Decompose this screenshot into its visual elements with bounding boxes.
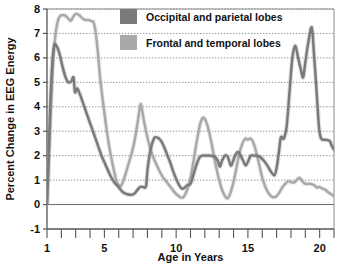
legend-label-0: Occipital and parietal lobes (146, 11, 283, 23)
legend-label-1: Frontal and temporal lobes (146, 37, 281, 49)
y-tick-label-0: 0 (34, 198, 40, 210)
chart-canvas: -101234567815101520Occipital and parieta… (0, 0, 343, 266)
y-tick-label-3: 3 (34, 125, 40, 137)
y-axis-title: Percent Change in EEG Energy (4, 37, 16, 201)
y-tick-label-6: 6 (34, 51, 40, 63)
y-tick-label-7: 7 (34, 27, 40, 39)
x-tick-label-1: 1 (44, 242, 50, 254)
legend-swatch-0 (120, 9, 137, 24)
y-tick-label-8: 8 (34, 3, 40, 15)
y-axis-ticks: -1012345678 (30, 3, 47, 235)
y-tick-label-1: 1 (34, 174, 40, 186)
legend-swatch-1 (120, 35, 137, 50)
x-tick-label-5: 5 (101, 242, 107, 254)
x-tick-label-20: 20 (314, 242, 326, 254)
x-axis-title: Age in Years (158, 251, 224, 263)
x-tick-label-15: 15 (242, 242, 254, 254)
y-tick-label-4: 4 (34, 100, 41, 112)
eeg-energy-line-chart: -101234567815101520Occipital and parieta… (0, 0, 343, 266)
y-tick-label--1: -1 (30, 223, 40, 235)
y-tick-label-2: 2 (34, 149, 40, 161)
y-tick-label-5: 5 (34, 76, 40, 88)
x-axis-minor-ticks (47, 229, 334, 238)
